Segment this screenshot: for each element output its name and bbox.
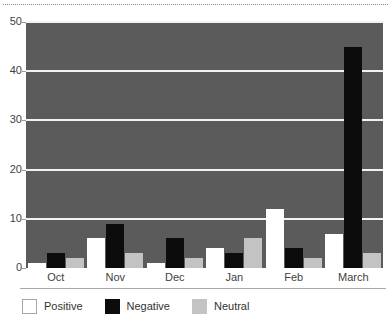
bar-march-positive[interactable] (325, 234, 343, 268)
bar-group (86, 22, 146, 268)
x-axis-tick-label-oct: Oct (26, 271, 86, 284)
bar-nov-neutral[interactable] (125, 253, 143, 268)
y-axis-tick-mark (22, 268, 26, 269)
bar-group (264, 22, 324, 268)
y-axis-tick-label: 30 (2, 114, 22, 125)
bar-march-negative[interactable] (344, 47, 362, 268)
negative-swatch (105, 299, 120, 314)
legend-label: Positive (44, 300, 83, 312)
bar-oct-positive[interactable] (28, 263, 46, 268)
legend-label: Negative (127, 300, 170, 312)
bar-group (145, 22, 205, 268)
x-axis-tick-label-jan: Jan (205, 271, 265, 284)
x-axis-tick-label-feb: Feb (264, 271, 324, 284)
axis-separator (20, 288, 386, 289)
y-axis-tick-label: 10 (2, 213, 22, 224)
y-axis-tick-label: 40 (2, 65, 22, 76)
legend-item-neutral[interactable]: Neutral (192, 299, 249, 314)
legend-item-negative[interactable]: Negative (105, 299, 170, 314)
x-axis-tick-label-nov: Nov (86, 271, 146, 284)
positive-swatch (22, 299, 37, 314)
bar-group (205, 22, 265, 268)
bar-march-neutral[interactable] (363, 253, 381, 268)
y-axis-tick-label: 0 (2, 262, 22, 273)
y-axis-tick-label: 50 (2, 16, 22, 27)
legend-label: Neutral (214, 300, 249, 312)
bar-dec-positive[interactable] (147, 263, 165, 268)
bar-jan-negative[interactable] (225, 253, 243, 268)
chart-legend: PositiveNegativeNeutral (22, 297, 271, 315)
bar-group (324, 22, 384, 268)
bars-layer (26, 22, 383, 268)
grouped-bar-chart: 01020304050 OctNovDecJanFebMarch Positiv… (0, 0, 391, 321)
y-axis: 01020304050 (0, 0, 24, 321)
bar-nov-positive[interactable] (87, 238, 105, 268)
bar-jan-neutral[interactable] (244, 238, 262, 268)
bar-group (26, 22, 86, 268)
bar-dec-negative[interactable] (166, 238, 184, 268)
bar-feb-negative[interactable] (285, 248, 303, 268)
legend-item-positive[interactable]: Positive (22, 299, 83, 314)
bar-dec-neutral[interactable] (185, 258, 203, 268)
x-axis-tick-label-march: March (324, 271, 384, 284)
neutral-swatch (192, 299, 207, 314)
bar-oct-negative[interactable] (47, 253, 65, 268)
bar-feb-positive[interactable] (266, 209, 284, 268)
x-axis: OctNovDecJanFebMarch (26, 271, 383, 287)
bar-oct-neutral[interactable] (66, 258, 84, 268)
bar-nov-negative[interactable] (106, 224, 124, 268)
y-axis-tick-label: 20 (2, 164, 22, 175)
x-axis-tick-label-dec: Dec (145, 271, 205, 284)
bar-feb-neutral[interactable] (304, 258, 322, 268)
bar-jan-positive[interactable] (206, 248, 224, 268)
